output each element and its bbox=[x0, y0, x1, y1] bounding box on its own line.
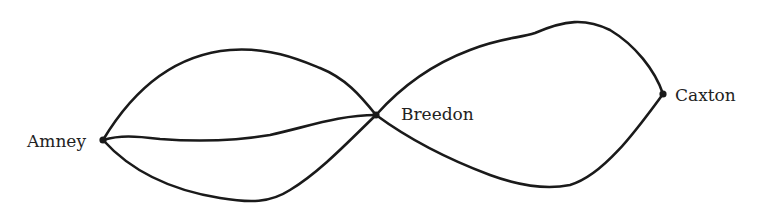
route-network-diagram bbox=[0, 0, 758, 210]
town-label-breedon: Breedon bbox=[401, 106, 474, 123]
town-label-caxton: Caxton bbox=[675, 87, 736, 104]
town-node-amney bbox=[99, 136, 106, 143]
road-amney-breedon-lower bbox=[103, 115, 376, 201]
town-label-amney: Amney bbox=[27, 133, 86, 150]
road-breedon-caxton-upper bbox=[376, 22, 663, 115]
road-amney-breedon-upper bbox=[103, 50, 376, 140]
road-amney-breedon-middle bbox=[103, 115, 376, 140]
town-node-caxton bbox=[659, 90, 666, 97]
town-node-breedon bbox=[372, 111, 379, 118]
